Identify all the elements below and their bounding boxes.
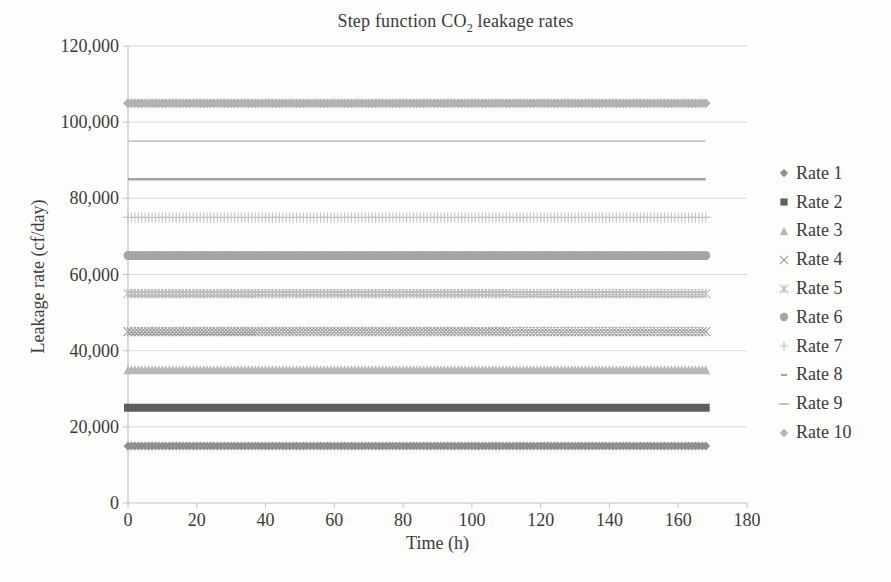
legend-item-label: Rate 4 (796, 249, 843, 270)
series-rate-6 (124, 251, 711, 260)
rate-4-marker-glyph (780, 256, 788, 264)
legend-item-rate-7: Rate 7 (777, 332, 889, 361)
rate-2-marker-glyph (780, 199, 787, 206)
legend-item-rate-9: Rate 9 (777, 389, 889, 418)
rate-7-marker-glyph (780, 342, 788, 350)
series-rate-3 (124, 365, 711, 374)
series-rate-7 (123, 212, 711, 222)
y-tick-label: 20,000 (70, 417, 120, 437)
legend-item-rate-3: Rate 3 (777, 217, 889, 246)
legend-item-label: Rate 2 (796, 192, 843, 213)
x-tick-label: 120 (527, 510, 554, 530)
legend-item-label: Rate 6 (796, 307, 843, 328)
series-rate-1 (124, 441, 711, 450)
rate-9-marker-icon (777, 397, 791, 411)
legend-item-rate-10: Rate 10 (777, 418, 889, 447)
rate-5-marker-glyph (780, 284, 788, 292)
legend-item-label: Rate 3 (796, 220, 843, 241)
x-tick-label: 40 (257, 510, 275, 530)
legend-item-label: Rate 7 (796, 336, 843, 357)
rate-8-marker-icon (777, 368, 791, 382)
rate-10-marker-icon (777, 426, 791, 440)
rate-3-marker-glyph (780, 227, 788, 235)
rate-3-marker-icon (777, 224, 791, 238)
x-tick-label: 0 (124, 510, 133, 530)
series-rate-10 (123, 98, 711, 108)
x-axis-label: Time (h) (128, 533, 747, 554)
legend: Rate 1Rate 2Rate 3Rate 4Rate 5Rate 6Rate… (777, 159, 889, 447)
x-tick-label: 60 (325, 510, 343, 530)
series-rate-4 (124, 327, 711, 336)
rate-6-marker-icon (777, 310, 791, 324)
legend-item-label: Rate 8 (796, 364, 843, 385)
x-tick-label: 100 (458, 510, 485, 530)
legend-item-rate-4: Rate 4 (777, 245, 889, 274)
x-tick-label: 180 (734, 510, 761, 530)
rate-6-marker-glyph (780, 313, 788, 321)
legend-item-label: Rate 5 (796, 278, 843, 299)
y-tick-label: 100,000 (61, 112, 120, 132)
series-rate-2 (124, 404, 710, 412)
legend-item-rate-1: Rate 1 (777, 159, 889, 188)
chart-figure: Step function CO2 leakage rates Leakage … (0, 0, 891, 582)
rate-5-marker-icon (777, 282, 791, 296)
rate-7-marker-icon (777, 339, 791, 353)
rate-1-marker-icon (777, 166, 791, 180)
x-tick-label: 80 (394, 510, 412, 530)
legend-item-label: Rate 10 (796, 422, 852, 443)
y-tick-label: 120,000 (61, 36, 120, 56)
x-tick-label: 160 (665, 510, 692, 530)
x-tick-label: 20 (188, 510, 206, 530)
plot-area: 020,00040,00060,00080,000100,000120,0000… (0, 0, 891, 582)
legend-item-label: Rate 9 (796, 393, 843, 414)
series-rate-5 (124, 289, 711, 298)
rate-10-marker-glyph (780, 428, 788, 436)
legend-item-rate-2: Rate 2 (777, 188, 889, 217)
legend-item-rate-5: Rate 5 (777, 274, 889, 303)
rate-1-marker-glyph (780, 169, 788, 177)
rate-2-marker-icon (777, 195, 791, 209)
rate-4-marker-icon (777, 253, 791, 267)
legend-item-label: Rate 1 (796, 163, 843, 184)
y-tick-label: 60,000 (70, 265, 120, 285)
x-tick-label: 140 (596, 510, 623, 530)
y-tick-label: 0 (110, 493, 119, 513)
legend-item-rate-8: Rate 8 (777, 361, 889, 390)
legend-item-rate-6: Rate 6 (777, 303, 889, 332)
y-tick-label: 80,000 (70, 188, 120, 208)
y-tick-label: 40,000 (70, 341, 120, 361)
